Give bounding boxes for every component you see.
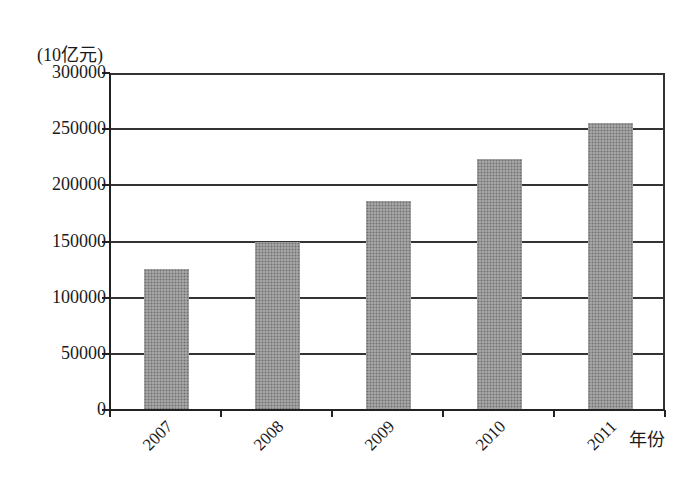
x-tick [331, 410, 333, 417]
y-tick-label: 0 [97, 399, 106, 420]
y-axis [109, 73, 111, 412]
y-tick-label: 50000 [61, 343, 106, 364]
x-tick-label: 2009 [353, 417, 398, 462]
x-tick [553, 410, 555, 417]
bar-2008 [255, 242, 300, 411]
x-tick [442, 410, 444, 417]
x-axis-title: 年份 [629, 425, 665, 451]
x-tick [109, 410, 111, 417]
bar-2009 [366, 201, 411, 410]
y-tick-label: 250000 [52, 118, 106, 139]
x-tick-label: 2010 [464, 417, 509, 462]
x-tick-label: 2008 [242, 417, 287, 462]
y-tick-label: 100000 [52, 287, 106, 308]
y-tick-label: 300000 [52, 62, 106, 83]
x-axis [109, 409, 665, 411]
y-tick-label: 200000 [52, 174, 106, 195]
x-tick [220, 410, 222, 417]
bar-2010 [477, 159, 522, 410]
bar-2011 [588, 123, 633, 410]
gridline [110, 184, 665, 186]
x-tick-label: 2011 [575, 417, 620, 462]
x-tick-label: 2007 [131, 417, 176, 462]
bar-2007 [144, 269, 189, 410]
x-tick [664, 410, 666, 417]
gridline [110, 128, 665, 130]
y-tick-label: 150000 [52, 231, 106, 252]
